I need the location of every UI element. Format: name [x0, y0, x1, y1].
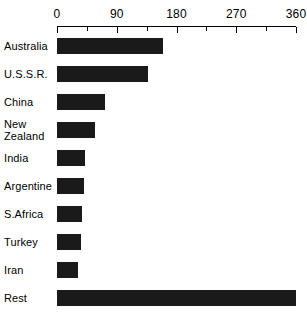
- category-label: Rest: [4, 284, 53, 312]
- bar-row: Australia: [0, 32, 307, 60]
- bar-track: [57, 172, 296, 200]
- category-label: Argentine: [4, 172, 53, 200]
- bar-track: [57, 116, 296, 144]
- bar-row: S.Africa: [0, 200, 307, 228]
- bar: [57, 290, 296, 306]
- bar: [57, 38, 163, 54]
- bar-track: [57, 32, 296, 60]
- bar: [57, 234, 81, 250]
- category-label: New Zealand: [4, 116, 53, 144]
- category-label: India: [4, 144, 53, 172]
- bar-track: [57, 200, 296, 228]
- bar: [57, 150, 85, 166]
- bar: [57, 262, 78, 278]
- bar: [57, 122, 95, 138]
- bar-row: Rest: [0, 284, 307, 312]
- category-label: China: [4, 88, 53, 116]
- bar-row: New Zealand: [0, 116, 307, 144]
- bar-track: [57, 228, 296, 256]
- bar-track: [57, 60, 296, 88]
- axis-tick-minor: [87, 27, 88, 31]
- x-axis: 090180270360: [0, 0, 307, 32]
- bar-track: [57, 144, 296, 172]
- axis-tick-label: 180: [166, 8, 187, 20]
- axis-tick-label: 360: [286, 8, 307, 20]
- bar: [57, 206, 82, 222]
- bar-chart: 090180270360 AustraliaU.S.S.R.ChinaNew Z…: [0, 0, 307, 317]
- category-label: Turkey: [4, 228, 53, 256]
- category-label: S.Africa: [4, 200, 53, 228]
- bar-track: [57, 284, 296, 312]
- bar-track: [57, 88, 296, 116]
- bar: [57, 94, 105, 110]
- bar-track: [57, 256, 296, 284]
- bar-row: Turkey: [0, 228, 307, 256]
- axis-tick-minor: [206, 27, 207, 31]
- axis-tick-minor: [147, 27, 148, 31]
- bar-row: India: [0, 144, 307, 172]
- category-label: Australia: [4, 32, 53, 60]
- bar: [57, 66, 148, 82]
- bar-row: China: [0, 88, 307, 116]
- bar-row: Argentine: [0, 172, 307, 200]
- axis-tick-label: 0: [54, 8, 61, 20]
- axis-tick-label: 270: [226, 8, 247, 20]
- axis-tick-label: 90: [110, 8, 124, 20]
- bar-row: Iran: [0, 256, 307, 284]
- bar-rows: AustraliaU.S.S.R.ChinaNew ZealandIndiaAr…: [0, 32, 307, 312]
- axis-tick-minor: [266, 27, 267, 31]
- bar-row: U.S.S.R.: [0, 60, 307, 88]
- category-label: Iran: [4, 256, 53, 284]
- category-label: U.S.S.R.: [4, 60, 53, 88]
- bar: [57, 178, 84, 194]
